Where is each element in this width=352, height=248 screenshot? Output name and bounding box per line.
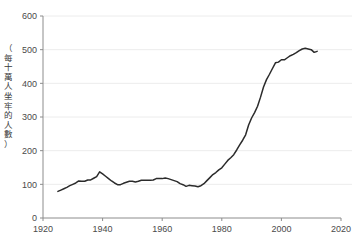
x-tick-label: 1960 <box>152 224 172 234</box>
chart-plot-area: 0100200300400500600 19201940196019802000… <box>0 0 352 248</box>
x-tick-label: 2000 <box>271 224 291 234</box>
x-tick-label: 1940 <box>93 224 113 234</box>
y-axis-ticks: 0100200300400500600 <box>22 11 43 223</box>
data-series-line <box>58 48 317 191</box>
x-tick-label: 1980 <box>212 224 232 234</box>
chart-figure: （每十萬人坐牢的人數） 0100200300400500600 19201940… <box>0 0 352 248</box>
y-tick-label: 400 <box>22 79 37 89</box>
y-tick-label: 600 <box>22 11 37 21</box>
grid-lines <box>43 16 352 184</box>
y-tick-label: 100 <box>22 180 37 190</box>
x-tick-label: 2020 <box>331 224 351 234</box>
y-tick-label: 200 <box>22 146 37 156</box>
y-tick-label: 300 <box>22 112 37 122</box>
figure-caption <box>16 241 352 248</box>
y-tick-label: 0 <box>32 213 37 223</box>
x-tick-label: 1920 <box>33 224 53 234</box>
x-axis-ticks: 192019401960198020002020 <box>33 218 351 234</box>
y-tick-label: 500 <box>22 45 37 55</box>
